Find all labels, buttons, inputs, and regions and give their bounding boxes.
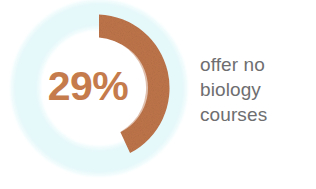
caption-line-3: courses <box>200 102 316 127</box>
infographic-root: 29% offer no biology courses <box>0 0 316 189</box>
callout-caption: offer no biology courses <box>200 52 316 127</box>
donut-percent-label: 29% <box>8 62 168 110</box>
caption-line-2: biology <box>200 77 316 102</box>
donut-chart: 29% <box>8 0 192 189</box>
caption-line-1: offer no <box>200 52 316 77</box>
